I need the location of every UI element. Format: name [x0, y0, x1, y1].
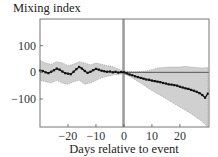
data-point: [58, 69, 60, 71]
data-point: [142, 78, 144, 80]
data-point: [106, 71, 108, 73]
data-point: [95, 68, 97, 70]
data-point: [103, 70, 105, 72]
data-point: [75, 68, 77, 70]
y-tick-label: 100: [18, 39, 36, 53]
x-tick-label: 20: [174, 129, 186, 143]
data-point: [179, 86, 181, 88]
data-point: [120, 71, 122, 73]
data-point: [176, 85, 178, 87]
plot-area: 1000−100−20−1001020: [11, 19, 209, 143]
data-point: [126, 72, 128, 74]
data-point: [64, 72, 66, 74]
data-point: [187, 88, 189, 90]
data-point: [44, 71, 46, 73]
data-point: [148, 79, 150, 81]
data-point: [151, 80, 153, 82]
data-point: [165, 82, 167, 84]
data-point: [100, 70, 102, 72]
data-point: [168, 83, 170, 85]
x-tick-label: −10: [87, 129, 106, 143]
data-point: [81, 68, 83, 70]
data-point: [50, 71, 52, 73]
y-tick-label: 0: [30, 65, 36, 79]
data-point: [47, 72, 49, 74]
data-point: [67, 73, 69, 75]
y-axis-title: Mixing index: [13, 1, 81, 15]
data-point: [134, 75, 136, 77]
data-point: [182, 86, 184, 88]
data-point: [56, 68, 58, 70]
data-point: [137, 76, 139, 78]
data-point: [86, 72, 88, 74]
data-point: [109, 70, 111, 72]
data-point: [173, 84, 175, 86]
x-axis-title: Days relative to event: [69, 142, 179, 156]
data-point: [154, 80, 156, 82]
data-point: [190, 89, 192, 91]
data-point: [145, 78, 147, 80]
data-point: [193, 90, 195, 92]
data-point: [140, 77, 142, 79]
data-point: [201, 94, 203, 96]
data-point: [162, 82, 164, 84]
data-point: [72, 71, 74, 73]
data-point: [170, 84, 172, 86]
data-point: [114, 71, 116, 73]
data-point: [53, 69, 55, 71]
data-point: [159, 81, 161, 83]
data-point: [61, 70, 63, 72]
data-point: [117, 72, 119, 74]
data-point: [123, 71, 125, 73]
x-tick-label: 0: [121, 129, 127, 143]
y-tick-label: −100: [11, 92, 36, 106]
data-point: [98, 69, 100, 71]
data-point: [128, 73, 130, 75]
data-point: [196, 91, 198, 93]
chart: Mixing index 1000−100−20−1001020 Days re…: [0, 0, 218, 157]
data-point: [131, 74, 133, 76]
data-point: [42, 70, 44, 72]
data-point: [156, 81, 158, 83]
data-point: [198, 92, 200, 94]
data-point: [184, 87, 186, 89]
data-point: [84, 70, 86, 72]
data-point: [89, 71, 91, 73]
data-point: [204, 97, 206, 99]
data-point: [92, 69, 94, 71]
x-tick-label: 10: [146, 129, 158, 143]
data-point: [78, 66, 80, 68]
x-tick-label: −20: [59, 129, 78, 143]
data-point: [112, 71, 114, 73]
data-point: [70, 73, 72, 75]
